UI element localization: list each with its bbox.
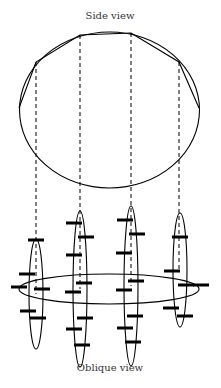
bar-marker: [74, 344, 90, 347]
bar-marker: [177, 315, 193, 318]
bar-marker: [65, 291, 81, 294]
bar-marker: [76, 282, 92, 285]
bar-marker: [164, 270, 180, 273]
bar-marker: [125, 341, 141, 344]
bar-marker: [117, 219, 133, 222]
bar-marker: [30, 317, 46, 320]
bar-marker: [66, 222, 82, 225]
bar-marker: [116, 252, 132, 255]
inscribed-polygon: [19, 33, 199, 108]
bar-marker: [178, 284, 194, 287]
side-view-figure: [19, 32, 200, 188]
bar-marker: [117, 327, 133, 330]
bar-marker: [34, 288, 50, 291]
bar-marker: [77, 317, 93, 320]
bar-marker: [28, 239, 44, 242]
side-view-label: Side view: [86, 10, 135, 21]
bar-marker: [116, 289, 132, 292]
bar-marker: [128, 280, 144, 283]
bar-marker: [127, 315, 143, 318]
projection-dashed-lines: [36, 33, 179, 294]
oblique-view-label: Oblique view: [77, 362, 143, 373]
bar-marker: [163, 307, 179, 310]
bar-marker: [129, 233, 145, 236]
bar-marker: [11, 286, 27, 289]
bar-marker: [193, 284, 209, 287]
bar-marker: [20, 310, 36, 313]
bar-marker: [78, 236, 94, 239]
bar-marker: [66, 254, 82, 257]
bar-marker: [172, 236, 188, 239]
projection-diagram: [0, 0, 221, 388]
bar-marker: [19, 273, 35, 276]
bar-marker: [66, 328, 82, 331]
